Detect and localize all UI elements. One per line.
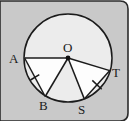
vertex-label-B: B bbox=[39, 99, 48, 112]
vertex-label-O: O bbox=[63, 41, 72, 54]
vertex-label-A: A bbox=[9, 52, 18, 65]
figure-canvas bbox=[0, 0, 132, 121]
vertex-label-T: T bbox=[112, 66, 120, 79]
vertex-label-S: S bbox=[78, 103, 85, 116]
geometry-figure: A O T B S bbox=[0, 0, 132, 121]
center-point-O-dot bbox=[66, 56, 71, 61]
